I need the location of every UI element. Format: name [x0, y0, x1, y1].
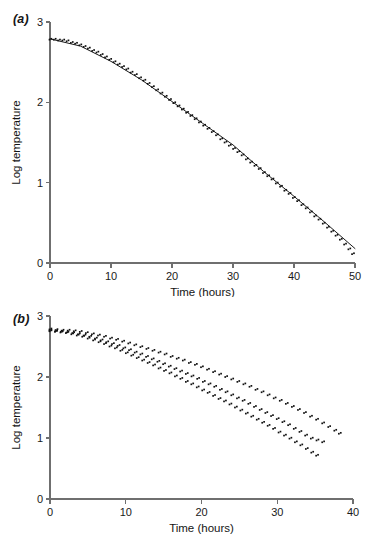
data-point: [273, 398, 275, 400]
data-point: [274, 427, 276, 429]
data-point: [157, 361, 159, 363]
data-point: [234, 407, 236, 409]
data-point: [170, 365, 172, 367]
data-point: [229, 404, 231, 406]
data-point: [279, 186, 281, 188]
data-series-series-fast-cooling: [49, 330, 319, 457]
data-point: [105, 335, 107, 337]
data-point: [299, 431, 301, 433]
data-point: [125, 352, 127, 354]
data-point: [53, 39, 55, 41]
data-point: [152, 350, 154, 352]
data-point: [87, 338, 89, 340]
data-point: [178, 357, 180, 359]
data-point: [65, 332, 67, 334]
data-point: [147, 355, 149, 357]
data-point: [57, 40, 59, 42]
data-point: [185, 381, 187, 383]
data-point: [140, 346, 142, 348]
data-point: [339, 239, 341, 241]
data-point: [136, 351, 138, 353]
data-point: [254, 165, 256, 167]
data-point: [309, 212, 311, 214]
data-point: [148, 347, 150, 349]
data-point: [89, 337, 91, 339]
data-point: [104, 57, 106, 59]
data-point: [103, 343, 105, 345]
data-point: [196, 378, 198, 380]
data-point: [121, 66, 123, 68]
data-point: [287, 424, 289, 426]
data-point: [121, 349, 123, 351]
data-point: [188, 362, 190, 364]
data-point: [223, 401, 225, 403]
data-point: [203, 389, 205, 391]
data-point: [59, 39, 61, 41]
data-point: [247, 412, 249, 414]
data-point: [294, 441, 296, 443]
data-point: [348, 248, 350, 250]
data-point: [241, 155, 243, 157]
data-point: [312, 437, 314, 439]
data-point: [151, 358, 153, 360]
data-point: [321, 441, 323, 443]
data-point: [74, 43, 76, 45]
data-point: [135, 344, 137, 346]
data-point: [262, 172, 264, 174]
data-point: [83, 46, 85, 48]
data-point: [138, 356, 140, 358]
data-point: [238, 380, 240, 382]
data-point: [110, 58, 112, 60]
data-point: [191, 114, 193, 116]
data-point: [176, 367, 178, 369]
data-point: [49, 39, 51, 41]
data-point: [230, 379, 232, 381]
data-point: [323, 441, 325, 443]
data-point: [243, 154, 245, 156]
data-point: [179, 371, 181, 373]
data-point: [56, 330, 58, 332]
data-point: [221, 138, 223, 140]
data-point: [166, 95, 168, 97]
data-point: [70, 333, 72, 335]
data-point: [70, 42, 72, 44]
data-point: [117, 64, 119, 66]
data-point: [207, 128, 209, 130]
data-point: [245, 413, 247, 415]
x-tick-label: 0: [47, 270, 53, 282]
data-point: [258, 168, 260, 170]
data-point: [114, 347, 116, 349]
data-point: [108, 59, 110, 61]
data-point: [299, 408, 301, 410]
data-point: [196, 363, 198, 365]
data-point: [162, 92, 164, 94]
data-point: [309, 416, 311, 418]
data-point: [187, 372, 189, 374]
data-point: [76, 335, 78, 337]
data-point: [144, 79, 146, 81]
data-point: [287, 402, 289, 404]
data-point: [155, 89, 157, 91]
data-point: [232, 378, 234, 380]
data-point: [200, 366, 202, 368]
data-point: [66, 40, 68, 42]
data-point: [102, 339, 104, 341]
data-point: [345, 243, 347, 245]
data-point: [333, 430, 335, 432]
data-point: [119, 344, 121, 346]
y-tick-label: 3: [37, 310, 43, 322]
data-point: [160, 367, 162, 369]
data-point: [324, 222, 326, 224]
data-point: [61, 331, 63, 333]
data-point: [187, 380, 189, 382]
y-tick-label: 2: [37, 371, 43, 383]
data-point: [183, 108, 185, 110]
data-point: [210, 383, 212, 385]
data-point: [206, 369, 208, 371]
data-point: [140, 354, 142, 356]
data-point: [343, 244, 345, 246]
data-point: [174, 368, 176, 370]
data-point: [307, 207, 309, 209]
data-point: [232, 394, 234, 396]
data-point: [236, 398, 238, 400]
